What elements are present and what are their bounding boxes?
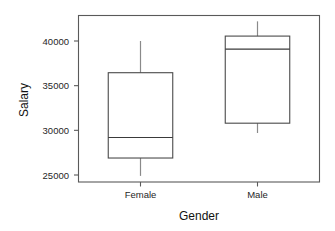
- box-group-male: [225, 21, 290, 133]
- y-tick-label-35000: 35000: [43, 80, 69, 91]
- y-axis-ticks: [74, 41, 79, 175]
- y-tick-label-25000: 25000: [43, 170, 69, 181]
- x-axis-title: Gender: [179, 209, 219, 223]
- boxplot-chart: 40000 35000 30000 25000 Salary Female Ma…: [0, 0, 335, 231]
- x-axis-ticks: [141, 182, 258, 187]
- y-tick-label-40000: 40000: [43, 36, 69, 47]
- plot-frame: [79, 16, 320, 183]
- y-axis-title: Salary: [17, 83, 31, 117]
- plot-svg: 40000 35000 30000 25000 Salary Female Ma…: [0, 0, 335, 231]
- x-tick-label-male: Male: [247, 189, 268, 200]
- box-female: [108, 73, 173, 158]
- y-tick-label-30000: 30000: [43, 125, 69, 136]
- x-tick-label-female: Female: [125, 189, 157, 200]
- box-group-female: [108, 41, 173, 176]
